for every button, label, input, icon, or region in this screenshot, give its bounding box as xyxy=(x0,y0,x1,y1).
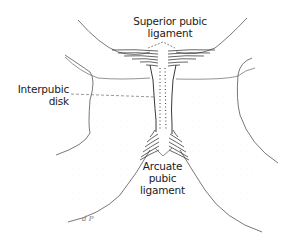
artist-signature: d P xyxy=(82,215,93,223)
right-upper-contour xyxy=(176,68,255,79)
left-upper-contour xyxy=(65,57,150,79)
arcuate-pubic-ligament-label: Arcuate pubic ligament xyxy=(125,160,200,196)
superior-pubic-ligament-label: Superior pubic ligament xyxy=(120,15,220,39)
pubic-symphysis-diagram: Superior pubic ligament Interpubic disk … xyxy=(0,0,301,242)
interpubic-label-line-2: disk xyxy=(14,95,69,107)
left-pubic-bone-fill xyxy=(55,79,152,225)
interpubic-label-line-1: Interpubic xyxy=(14,83,69,95)
interpubic-disk-label: Interpubic disk xyxy=(14,83,69,107)
superior-label-line-1: Superior pubic xyxy=(120,15,220,27)
arcuate-label-line-2: pubic xyxy=(125,172,200,184)
symphysis-joint xyxy=(150,65,176,134)
arcuate-label-line-1: Arcuate xyxy=(125,160,200,172)
arcuate-label-line-3: ligament xyxy=(125,184,200,196)
superior-label-line-2: ligament xyxy=(120,27,220,39)
